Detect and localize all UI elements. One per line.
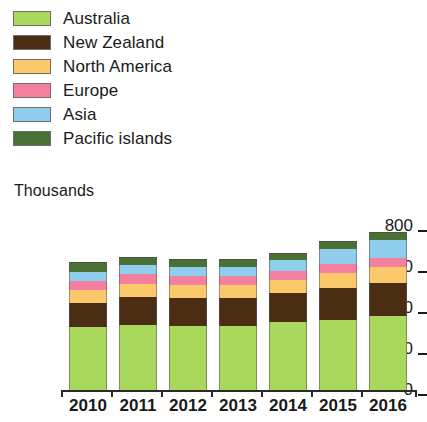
bar-segment-europe: [319, 264, 357, 273]
x-axis-label-2012: 2012: [160, 396, 216, 416]
bar-segment-north-america: [69, 290, 107, 303]
bar-segment-europe: [219, 276, 257, 285]
y-axis-tick-mark: [418, 312, 427, 314]
y-axis-tick-mark: [418, 271, 427, 273]
bar-segment-europe: [269, 271, 307, 280]
bar-segment-australia: [369, 316, 407, 390]
bar-segment-new-zealand: [369, 283, 407, 316]
bar-segment-pacific-islands: [319, 241, 357, 249]
bar-segment-north-america: [119, 284, 157, 297]
x-axis-baseline: [61, 390, 417, 392]
bar-segment-asia: [169, 267, 207, 276]
x-axis-label-2010: 2010: [60, 396, 116, 416]
bar-2011: [119, 0, 157, 390]
bar-segment-new-zealand: [169, 298, 207, 326]
bar-segment-asia: [369, 240, 407, 258]
bar-segment-australia: [269, 322, 307, 390]
bar-segment-europe: [169, 276, 207, 285]
bar-segment-asia: [219, 267, 257, 276]
bar-segment-australia: [219, 326, 257, 390]
bar-segment-asia: [119, 265, 157, 274]
y-axis-tick-mark: [418, 394, 427, 396]
bar-segment-australia: [69, 327, 107, 390]
bar-segment-north-america: [369, 267, 407, 283]
bar-2015: [319, 0, 357, 390]
bar-segment-new-zealand: [319, 288, 357, 320]
bar-segment-australia: [169, 326, 207, 390]
stacked-bar-chart: AustraliaNew ZealandNorth AmericaEuropeA…: [0, 0, 427, 422]
x-axis-label-2011: 2011: [110, 396, 166, 416]
bar-segment-north-america: [169, 285, 207, 298]
x-axis-label-2013: 2013: [210, 396, 266, 416]
bar-segment-australia: [119, 325, 157, 390]
x-axis-label-2015: 2015: [310, 396, 366, 416]
x-axis-label-2014: 2014: [260, 396, 316, 416]
bar-2014: [269, 0, 307, 390]
bar-segment-asia: [69, 272, 107, 281]
bar-segment-new-zealand: [219, 298, 257, 326]
x-axis-label-2016: 2016: [360, 396, 416, 416]
bar-segment-europe: [369, 258, 407, 267]
bar-2012: [169, 0, 207, 390]
bar-segment-pacific-islands: [69, 262, 107, 272]
bar-segment-north-america: [269, 280, 307, 293]
bar-segment-pacific-islands: [369, 232, 407, 240]
bar-2010: [69, 0, 107, 390]
bar-segment-australia: [319, 320, 357, 390]
y-axis-tick-mark: [418, 230, 427, 232]
bar-2013: [219, 0, 257, 390]
bar-segment-europe: [69, 281, 107, 290]
y-axis-tick-mark: [418, 353, 427, 355]
plot-area: 0200400600800201020112012201320142015201…: [0, 0, 427, 422]
bar-segment-new-zealand: [69, 303, 107, 327]
bar-segment-europe: [119, 274, 157, 284]
bar-segment-pacific-islands: [169, 259, 207, 267]
bar-segment-new-zealand: [269, 293, 307, 322]
bar-segment-asia: [319, 249, 357, 264]
bar-segment-asia: [269, 260, 307, 271]
bar-2016: [369, 0, 407, 390]
bar-segment-pacific-islands: [269, 253, 307, 260]
bar-segment-new-zealand: [119, 297, 157, 325]
bar-segment-pacific-islands: [119, 257, 157, 265]
bar-segment-north-america: [319, 273, 357, 288]
bar-segment-pacific-islands: [219, 259, 257, 267]
bar-segment-north-america: [219, 285, 257, 298]
